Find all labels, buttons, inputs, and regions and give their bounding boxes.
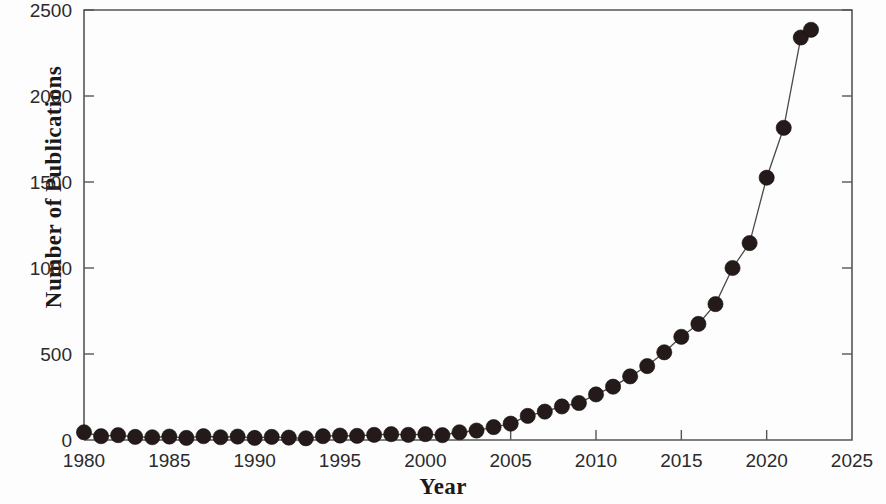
data-point-marker bbox=[76, 425, 91, 440]
data-point-marker bbox=[520, 408, 535, 423]
data-point-marker bbox=[537, 404, 552, 419]
data-point-marker bbox=[759, 170, 774, 185]
data-point-marker bbox=[418, 427, 433, 442]
data-point-marker bbox=[503, 416, 518, 431]
data-point-marker bbox=[588, 387, 603, 402]
y-tick-label: 2500 bbox=[30, 0, 72, 21]
data-point-marker bbox=[315, 429, 330, 444]
data-point-marker bbox=[93, 429, 108, 444]
data-point-marker bbox=[803, 22, 818, 37]
data-point-marker bbox=[452, 425, 467, 440]
x-tick-label: 1990 bbox=[234, 450, 276, 471]
chart-figure: Number of Publications Year 050010001500… bbox=[0, 0, 886, 504]
y-tick-label: 500 bbox=[40, 344, 72, 365]
x-tick-label: 1995 bbox=[319, 450, 361, 471]
data-point-marker bbox=[605, 379, 620, 394]
data-point-marker bbox=[298, 431, 313, 446]
data-point-marker bbox=[742, 235, 757, 250]
data-point-marker bbox=[247, 430, 262, 445]
data-point-marker bbox=[469, 423, 484, 438]
x-tick-label: 1980 bbox=[63, 450, 105, 471]
data-point-marker bbox=[145, 430, 160, 445]
data-point-marker bbox=[367, 427, 382, 442]
data-point-marker bbox=[111, 428, 126, 443]
y-tick-label: 0 bbox=[61, 430, 72, 451]
data-point-marker bbox=[486, 420, 501, 435]
data-point-marker bbox=[708, 297, 723, 312]
data-point-marker bbox=[384, 427, 399, 442]
data-point-marker bbox=[435, 428, 450, 443]
x-tick-label: 2010 bbox=[575, 450, 617, 471]
y-tick-label: 1000 bbox=[30, 258, 72, 279]
data-point-marker bbox=[332, 428, 347, 443]
data-point-marker bbox=[213, 430, 228, 445]
y-tick-label: 2000 bbox=[30, 86, 72, 107]
data-point-marker bbox=[349, 428, 364, 443]
data-point-marker bbox=[640, 358, 655, 373]
data-point-marker bbox=[623, 369, 638, 384]
data-line bbox=[84, 30, 811, 439]
data-point-marker bbox=[128, 429, 143, 444]
data-point-marker bbox=[674, 329, 689, 344]
data-point-marker bbox=[281, 430, 296, 445]
y-tick-label: 1500 bbox=[30, 172, 72, 193]
data-point-marker bbox=[264, 429, 279, 444]
data-point-marker bbox=[230, 429, 245, 444]
x-tick-label: 2015 bbox=[660, 450, 702, 471]
data-point-marker bbox=[657, 345, 672, 360]
x-tick-label: 2000 bbox=[404, 450, 446, 471]
x-tick-label: 2025 bbox=[831, 450, 873, 471]
data-point-marker bbox=[554, 399, 569, 414]
data-point-marker bbox=[691, 316, 706, 331]
data-point-marker bbox=[162, 429, 177, 444]
axis-frame bbox=[84, 10, 852, 440]
plot-area: 05001000150020002500 1980198519901995200… bbox=[0, 0, 886, 504]
data-point-marker bbox=[571, 395, 586, 410]
x-tick-label: 1985 bbox=[148, 450, 190, 471]
data-points bbox=[76, 22, 818, 446]
data-point-marker bbox=[196, 429, 211, 444]
data-point-marker bbox=[179, 430, 194, 445]
x-tick-label: 2005 bbox=[490, 450, 532, 471]
data-point-marker bbox=[776, 120, 791, 135]
x-tick-label: 2020 bbox=[746, 450, 788, 471]
data-point-marker bbox=[401, 427, 416, 442]
data-point-marker bbox=[725, 260, 740, 275]
y-axis-ticks: 05001000150020002500 bbox=[30, 0, 852, 451]
